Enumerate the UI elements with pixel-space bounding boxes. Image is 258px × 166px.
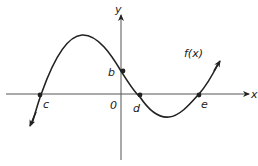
function-graph: y x 0 f(x) c b d e <box>0 0 258 166</box>
point-d <box>138 93 143 98</box>
label-e: e <box>201 98 208 111</box>
label-d: d <box>133 102 141 115</box>
point-b <box>121 69 126 74</box>
curve-right-arrow <box>214 61 220 71</box>
point-e <box>197 93 202 98</box>
x-axis-label: x <box>250 88 258 101</box>
origin-label: 0 <box>110 99 117 112</box>
label-b: b <box>108 66 115 79</box>
function-label: f(x) <box>184 47 203 60</box>
label-c: c <box>43 98 49 111</box>
curve-left-arrow <box>30 112 36 126</box>
y-axis-label: y <box>114 3 122 16</box>
point-c <box>38 93 43 98</box>
